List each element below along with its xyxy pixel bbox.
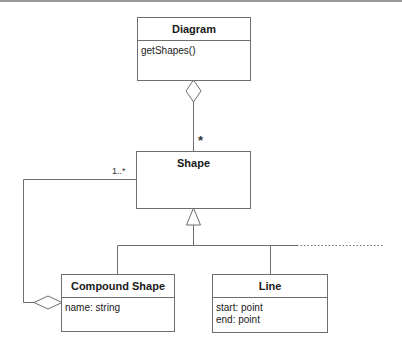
- class-diagram[interactable]: Diagram getShapes(): [137, 17, 251, 81]
- class-name: Line: [213, 275, 327, 297]
- aggregation-diamond-compound: [34, 296, 62, 309]
- attributes-compartment: name: string: [62, 298, 174, 314]
- multiplicity-label: 1..*: [112, 166, 126, 176]
- aggregation-diamond-diagram: [186, 80, 201, 102]
- class-compound-shape[interactable]: Compound Shape name: string: [61, 274, 175, 332]
- operation: getShapes(): [141, 45, 250, 57]
- generalization-triangle: [187, 208, 201, 225]
- attribute: end: point: [216, 314, 327, 326]
- class-name: Diagram: [138, 18, 250, 40]
- class-line[interactable]: Line start: point end: point: [212, 274, 328, 333]
- operations-compartment: getShapes(): [138, 41, 250, 57]
- multiplicity-label: *: [198, 133, 203, 148]
- class-shape[interactable]: Shape: [136, 151, 251, 209]
- class-name: Compound Shape: [62, 275, 174, 297]
- attribute: name: string: [65, 302, 174, 314]
- attribute: start: point: [216, 302, 327, 314]
- class-name: Shape: [137, 152, 250, 174]
- attributes-compartment: start: point end: point: [213, 298, 327, 326]
